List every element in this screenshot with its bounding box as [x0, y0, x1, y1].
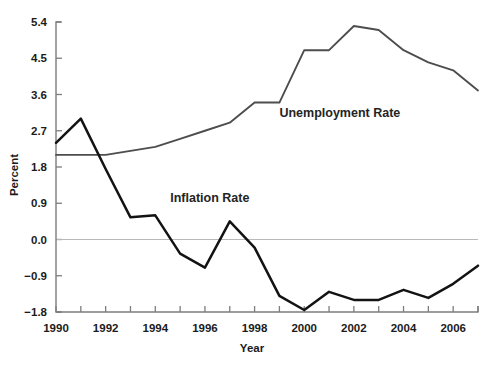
y-tick-label: 2.7	[31, 125, 47, 137]
y-axis-tick-labels: −1.8−0.90.00.91.82.73.64.55.4	[24, 16, 47, 318]
line-inflation-rate	[56, 119, 478, 310]
series-label-inflation-rate: Inflation Rate	[170, 191, 249, 205]
y-tick-label: 1.8	[31, 161, 48, 173]
y-axis-ticks	[56, 22, 62, 312]
y-tick-label: 3.6	[31, 89, 47, 101]
y-tick-label: −1.8	[24, 306, 47, 318]
line-unemployment-rate	[56, 26, 478, 155]
x-tick-label: 1990	[43, 322, 69, 334]
x-tick-label: 2002	[341, 322, 367, 334]
x-axis-tick-labels: 199019921994199619982000200220042006	[43, 322, 466, 334]
series-label-unemployment-rate: Unemployment Rate	[279, 106, 400, 120]
y-tick-label: −0.9	[24, 270, 47, 282]
x-tick-label: 1996	[192, 322, 218, 334]
x-tick-label: 2000	[291, 322, 317, 334]
y-tick-label: 4.5	[31, 52, 48, 64]
x-axis-line	[56, 306, 478, 312]
y-tick-label: 0.0	[31, 234, 47, 246]
x-tick-label: 1994	[142, 322, 168, 334]
x-tick-label: 1998	[242, 322, 268, 334]
x-axis-title: Year	[240, 342, 265, 354]
x-tick-label: 2006	[440, 322, 466, 334]
x-tick-label: 1992	[93, 322, 119, 334]
y-tick-label: 5.4	[31, 16, 48, 28]
y-tick-label: 0.9	[31, 197, 47, 209]
chart-plot-area: −1.8−0.90.00.91.82.73.64.55.4 1990199219…	[0, 0, 493, 365]
economic-indicators-chart: −1.8−0.90.00.91.82.73.64.55.4 1990199219…	[0, 0, 493, 365]
x-tick-label: 2004	[391, 322, 417, 334]
y-axis-title: Percent	[8, 154, 20, 196]
x-axis-ticks	[56, 306, 478, 312]
